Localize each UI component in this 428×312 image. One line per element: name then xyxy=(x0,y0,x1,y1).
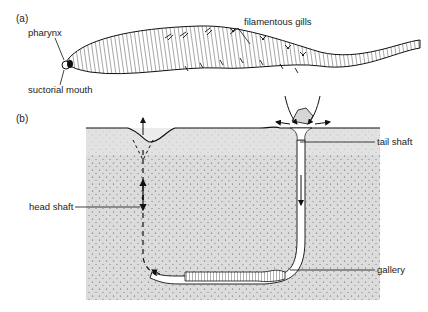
gallery-label: gallery xyxy=(377,264,405,275)
head-shaft-label: head shaft xyxy=(29,201,73,212)
worm-illustration xyxy=(55,26,420,85)
pharynx-label: pharynx xyxy=(28,27,62,38)
diagram-canvas xyxy=(0,0,428,312)
burrow-cross-section xyxy=(75,96,380,300)
filamentous-gills-label: filamentous gills xyxy=(244,16,312,27)
panel-a-tag: (a) xyxy=(16,13,28,24)
tail-shaft-label: tail shaft xyxy=(377,136,412,147)
suctorial-mouth-label: suctorial mouth xyxy=(28,84,92,95)
panel-b-tag: (b) xyxy=(16,113,28,124)
